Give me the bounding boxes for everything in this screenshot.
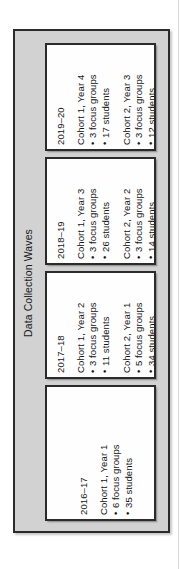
wave-content: 2016–17Cohort 1, Year 16 focus groups35 … bbox=[47, 387, 156, 521]
wave-year-label: 2017–18 bbox=[55, 335, 66, 373]
wave-box-2017-18: 2017–18Cohort 1, Year 23 focus groups11 … bbox=[45, 271, 156, 379]
cohort-bullet-list: 3 focus groups17 students bbox=[87, 74, 112, 145]
wave-box-2018-19: 2018–19Cohort 1, Year 33 focus groups26 … bbox=[45, 157, 156, 265]
cohort-block: Cohort 1, Year 16 focus groups35 student… bbox=[98, 444, 136, 515]
cohort-bullet-item: 3 focus groups bbox=[133, 188, 146, 259]
wave-year-label: 2019–20 bbox=[55, 107, 66, 145]
cohort-bullet-item: 5 focus groups bbox=[133, 302, 146, 373]
figure-title: Data Collection Waves bbox=[15, 31, 41, 535]
cohort-label: Cohort 1, Year 4 bbox=[75, 74, 86, 145]
cohort-bullet-list: 6 focus groups35 students bbox=[110, 444, 135, 515]
cohort-bullet-item: 3 focus groups bbox=[133, 74, 146, 145]
cohort-bullet-list: 3 focus groups12 students bbox=[133, 74, 156, 145]
cohort-bullet-item: 17 students bbox=[100, 74, 113, 145]
cohort-bullet-item: 3 focus groups bbox=[87, 74, 100, 145]
cohort-block: Cohort 2, Year 23 focus groups14 student… bbox=[121, 188, 157, 259]
cohort-block: Cohort 1, Year 43 focus groups17 student… bbox=[75, 74, 113, 145]
cohort-block: Cohort 1, Year 23 focus groups11 student… bbox=[75, 302, 113, 373]
cohort-bullet-item: 35 students bbox=[123, 444, 136, 515]
cohort-label: Cohort 2, Year 1 bbox=[121, 302, 132, 373]
cohort-bullet-item: 11 students bbox=[100, 302, 113, 373]
wave-content: 2018–19Cohort 1, Year 33 focus groups26 … bbox=[47, 159, 156, 265]
wave-year-label: 2018–19 bbox=[55, 221, 66, 259]
cohort-bullet-item: 3 focus groups bbox=[87, 188, 100, 259]
cohort-block: Cohort 2, Year 15 focus groups34 student… bbox=[121, 302, 157, 373]
wave-content: 2019–20Cohort 1, Year 43 focus groups17 … bbox=[47, 45, 156, 151]
cohort-bullet-item: 26 students bbox=[100, 188, 113, 259]
cohort-label: Cohort 1, Year 2 bbox=[75, 302, 86, 373]
cohort-label: Cohort 1, Year 1 bbox=[98, 444, 109, 515]
waves-strip: 2019–20Cohort 1, Year 43 focus groups17 … bbox=[41, 39, 160, 523]
cohort-label: Cohort 2, Year 3 bbox=[121, 74, 132, 145]
cohort-bullet-item: 14 students bbox=[146, 188, 156, 259]
wave-box-2019-20: 2019–20Cohort 1, Year 43 focus groups17 … bbox=[45, 43, 156, 151]
cohort-bullet-item: 34 students bbox=[146, 302, 156, 373]
cohort-bullet-list: 3 focus groups14 students bbox=[133, 188, 156, 259]
page-scan-edge bbox=[178, 0, 179, 569]
data-collection-waves-figure: Data Collection Waves 2019–20Cohort 1, Y… bbox=[13, 29, 170, 533]
cohort-block: Cohort 1, Year 33 focus groups26 student… bbox=[75, 188, 113, 259]
wave-year-label: 2016–17 bbox=[78, 477, 89, 515]
cohort-block: Cohort 2, Year 33 focus groups12 student… bbox=[121, 74, 157, 145]
cohort-label: Cohort 1, Year 3 bbox=[75, 188, 86, 259]
cohort-bullet-list: 3 focus groups11 students bbox=[87, 302, 112, 373]
wave-content: 2017–18Cohort 1, Year 23 focus groups11 … bbox=[47, 273, 156, 379]
cohort-label: Cohort 2, Year 2 bbox=[121, 188, 132, 259]
wave-box-2016-17: 2016–17Cohort 1, Year 16 focus groups35 … bbox=[45, 385, 156, 521]
cohort-bullet-item: 3 focus groups bbox=[87, 302, 100, 373]
cohort-bullet-item: 12 students bbox=[146, 74, 156, 145]
cohort-bullet-item: 6 focus groups bbox=[110, 444, 123, 515]
cohort-bullet-list: 5 focus groups34 students bbox=[133, 302, 156, 373]
cohort-bullet-list: 3 focus groups26 students bbox=[87, 188, 112, 259]
